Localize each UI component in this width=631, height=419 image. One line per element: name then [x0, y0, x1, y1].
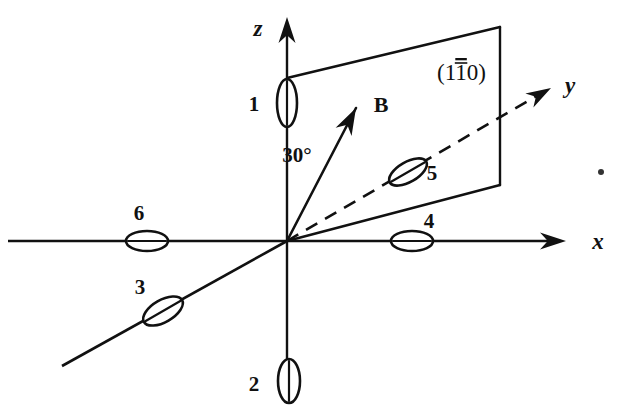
b-field-arrowhead: [336, 108, 356, 136]
x-axis: x: [8, 229, 604, 254]
field-angle-label: 30°: [282, 143, 311, 167]
y-axis-arrowhead: [525, 88, 551, 107]
miller-post: 0): [467, 60, 486, 85]
z-axis-label: z: [253, 16, 263, 41]
domain-marker-3: 3: [135, 275, 188, 332]
plane-bottom-edge: [287, 185, 500, 241]
domain-number-label-1: 1: [249, 92, 260, 116]
x-axis-label: x: [591, 229, 604, 254]
domain-marker-1: 1: [249, 79, 297, 127]
miller-pre: (1: [437, 60, 456, 85]
stray-ink-dot: [598, 169, 604, 175]
z-axis: z: [253, 16, 296, 398]
plane-miller-index-label: (110): [437, 60, 486, 85]
domain-marker-4: 4: [391, 209, 435, 251]
crystal-plane-group: (110): [287, 27, 500, 241]
b-field-line: [287, 108, 356, 241]
b-field-label: B: [374, 92, 389, 117]
domain-number-label-4: 4: [424, 209, 435, 233]
domain-marker-6: 6: [126, 201, 168, 251]
domain-number-label-2: 2: [249, 372, 260, 396]
crystal-domain-diagram: x z y (110): [0, 0, 631, 419]
domain-number-label-3: 3: [135, 275, 146, 299]
diagram-canvas: x z y (110): [0, 0, 631, 419]
domain-number-label-6: 6: [134, 201, 145, 225]
y-axis-label: y: [562, 73, 576, 98]
domain-number-label-5: 5: [427, 161, 438, 185]
domain-marker-2: 2: [249, 359, 300, 403]
